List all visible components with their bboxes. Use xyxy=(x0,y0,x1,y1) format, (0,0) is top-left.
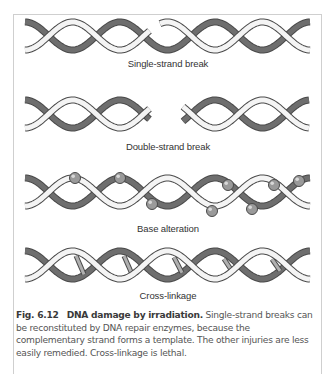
figure-caption: Fig. 6.12DNA damage by irradiation. Sing… xyxy=(16,309,316,359)
panel-label: Single-strand break xyxy=(0,58,336,69)
panel-single-strand-break: Single-strand break xyxy=(0,16,336,74)
altered-base-ball xyxy=(269,180,280,191)
altered-base-ball xyxy=(294,176,305,187)
panel-label: Double-strand break xyxy=(0,141,336,152)
altered-base-ball xyxy=(147,199,158,210)
panel-label: Cross-linkage xyxy=(0,290,336,301)
altered-base-ball xyxy=(115,173,126,184)
dna-helix-single-strand-break xyxy=(0,16,336,60)
dna-helix-base-alteration xyxy=(0,168,336,220)
altered-base-ball xyxy=(70,173,81,184)
figure-number: Fig. 6.12 xyxy=(16,310,59,320)
panel-double-strand-break: Double-strand break xyxy=(0,94,336,154)
panel-label: Base alteration xyxy=(0,223,336,234)
dna-helix-double-strand-break xyxy=(0,94,336,138)
altered-base-ball xyxy=(207,206,218,217)
figure-title: DNA damage by irradiation. xyxy=(67,310,203,320)
altered-base-ball xyxy=(247,204,258,215)
altered-base-ball xyxy=(223,180,234,191)
panel-base-alteration: Base alteration xyxy=(0,168,336,236)
dna-helix-cross-linkage xyxy=(0,245,336,289)
panel-cross-linkage: Cross-linkage xyxy=(0,245,336,303)
